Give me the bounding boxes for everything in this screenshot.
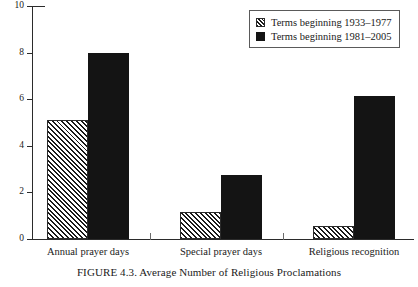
bar-1-0 (180, 212, 221, 239)
category-label-2: Religious recognition (274, 246, 418, 258)
y-tick-label-2: 2 (2, 187, 24, 197)
y-tick-label-4: 4 (2, 141, 24, 151)
bar-1-1 (221, 175, 262, 239)
legend-label-1: Terms beginning 1981–2005 (271, 31, 392, 42)
solid-swatch-icon (256, 32, 265, 41)
legend-label-0: Terms beginning 1933–1977 (271, 17, 392, 28)
y-tick-label-8: 8 (2, 48, 24, 58)
legend-item-1: Terms beginning 1981–2005 (256, 29, 392, 43)
bar-0-1 (88, 53, 129, 239)
legend: Terms beginning 1933–1977 Terms beginnin… (249, 10, 400, 48)
bar-2-1 (354, 96, 395, 239)
y-tick-0 (27, 239, 32, 240)
y-tick-label-10: 10 (2, 1, 24, 11)
x-axis-line (32, 239, 414, 240)
figure-caption: FIGURE 4.3. Average Number of Religious … (0, 266, 418, 279)
y-tick-label-0: 0 (2, 234, 24, 244)
y-tick-label-6: 6 (2, 94, 24, 104)
figure-container: 0246810 Annual prayer daysSpecial prayer… (0, 0, 418, 287)
legend-item-0: Terms beginning 1933–1977 (256, 15, 392, 29)
bar-0-0 (47, 120, 88, 239)
bar-2-0 (313, 226, 354, 239)
hatched-swatch-icon (256, 18, 265, 27)
